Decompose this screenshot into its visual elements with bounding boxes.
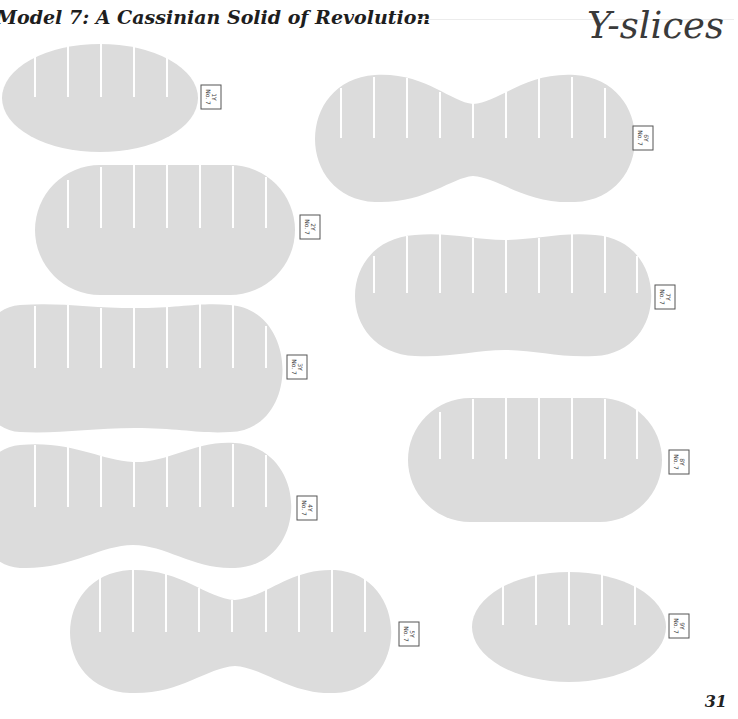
slice-7y: 7Y No. 7 [355,234,675,356]
slice-3y: 3Y No. 7 [0,304,307,432]
svg-text:No. 7: No. 7 [301,500,308,516]
svg-text:No. 7: No. 7 [304,219,311,235]
svg-text:No. 7: No. 7 [673,618,680,634]
page-number: 31 [705,692,727,711]
svg-text:No. 7: No. 7 [205,89,212,105]
slice-tag-1y: 1Y No. 7 [201,85,221,109]
slice-1y: 1Y No. 7 [2,44,221,152]
slice-tag-7y: 7Y No. 7 [655,285,675,309]
svg-text:No. 7: No. 7 [403,626,410,642]
svg-text:No. 7: No. 7 [659,289,666,305]
slice-6y: 6Y No. 7 [315,75,653,202]
svg-text:No. 7: No. 7 [673,454,680,470]
slice-tag-9y: 9Y No. 7 [669,614,689,638]
slice-2y: 2Y No. 7 [35,165,320,295]
slice-sheet: 1Y No. 7 2Y No. 7 [0,0,738,719]
slice-tag-6y: 6Y No. 7 [633,126,653,150]
slice-tag-2y: 2Y No. 7 [300,215,320,239]
slice-tag-3y: 3Y No. 7 [287,355,307,379]
svg-text:No. 7: No. 7 [291,359,298,375]
slice-5y: 5Y No. 7 [70,568,419,693]
slice-tag-8y: 8Y No. 7 [669,450,689,474]
slice-tag-5y: 5Y No. 7 [399,622,419,646]
slice-tag-4y: 4Y No. 7 [297,496,317,520]
svg-text:No. 7: No. 7 [637,130,644,146]
slice-9y: 9Y No. 7 [472,572,689,682]
slice-8y: 8Y No. 7 [408,398,689,522]
slice-4y: 4Y No. 7 [0,443,317,568]
